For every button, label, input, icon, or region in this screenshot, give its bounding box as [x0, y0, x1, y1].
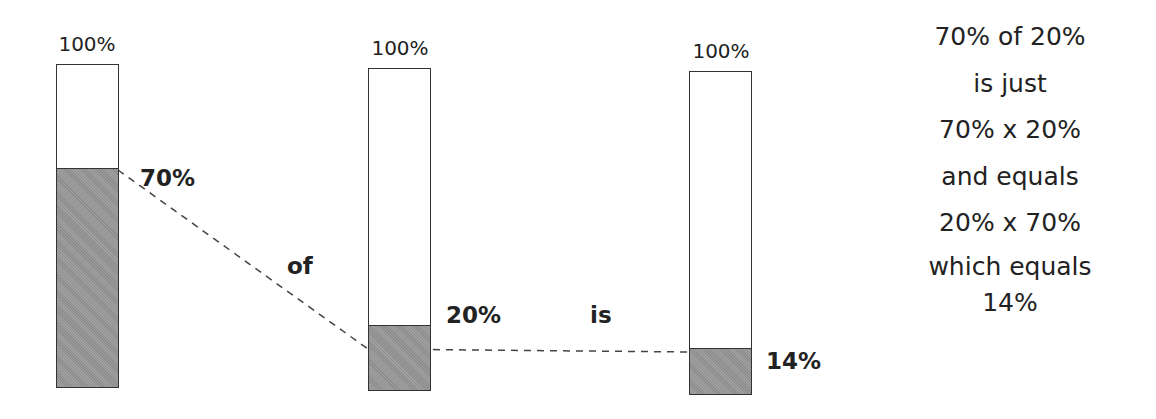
bar-2-value-label: 20% — [446, 302, 501, 328]
bar-2-top-label: 100% — [360, 36, 440, 60]
bar-3-fill — [690, 348, 751, 394]
bar-1-value-label: 70% — [140, 165, 195, 191]
explanation-line-4: and equals — [890, 154, 1130, 201]
bar-2-fill — [369, 325, 430, 390]
connector-is: is — [590, 302, 612, 328]
explanation-line-5: 20% x 70% — [890, 200, 1130, 247]
bar-3-top-label: 100% — [681, 39, 761, 63]
bar-1-fill — [57, 168, 118, 387]
bar-1-top-label: 100% — [47, 32, 127, 56]
explanation-line-6: which equals — [890, 247, 1130, 287]
explanation-line-1: 70% of 20% — [890, 14, 1130, 61]
explanation-line-3: 70% x 20% — [890, 107, 1130, 154]
connector-of: of — [287, 253, 313, 279]
explanation-line-2: is just — [890, 61, 1130, 108]
bar-3 — [689, 71, 752, 395]
explanation-line-7: 14% — [890, 287, 1130, 319]
bar-1 — [56, 64, 119, 388]
bar-2 — [368, 68, 431, 391]
explanation-text: 70% of 20% is just 70% x 20% and equals … — [890, 14, 1130, 319]
bar-3-value-label: 14% — [766, 348, 821, 374]
